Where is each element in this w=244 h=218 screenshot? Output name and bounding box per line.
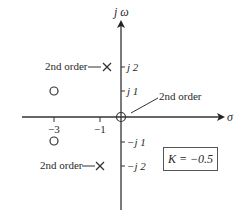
tick-label-mj1: −j 1 xyxy=(127,137,146,148)
pole-upper-label: 2nd order xyxy=(45,61,87,72)
tick-label-mj2: −j 2 xyxy=(127,161,146,172)
origin-label: 2nd order xyxy=(159,91,201,102)
tick-label-minus3: −3 xyxy=(48,124,60,135)
tick-label-minus1: −1 xyxy=(94,124,106,135)
tick-label-j2: j 2 xyxy=(127,62,138,73)
pole-upper-icon xyxy=(103,63,111,71)
zero-lower-icon xyxy=(50,137,58,145)
gain-box: K = −0.5 xyxy=(163,147,218,171)
pole-lower-label: 2nd order xyxy=(40,160,82,171)
sigma-axis-label: σ xyxy=(227,111,233,123)
gain-label: K = −0.5 xyxy=(168,152,213,167)
tick-label-j1: j 1 xyxy=(127,86,138,97)
jw-axis-label: j ω xyxy=(114,6,129,18)
pole-lower-icon xyxy=(96,162,104,170)
zero-upper-icon xyxy=(50,87,58,95)
pole-zero-diagram: j ω σ −3 −1 j 2 j 1 −j 1 −j 2 2nd order … xyxy=(0,0,244,218)
plot-canvas xyxy=(0,0,244,218)
origin-leader xyxy=(131,98,158,113)
